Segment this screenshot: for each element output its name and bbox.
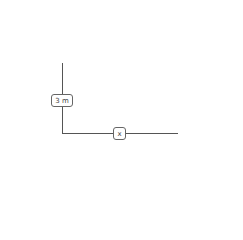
horizontal-length-label: x [113, 127, 126, 140]
vertical-length-label: 3 m [51, 94, 73, 107]
